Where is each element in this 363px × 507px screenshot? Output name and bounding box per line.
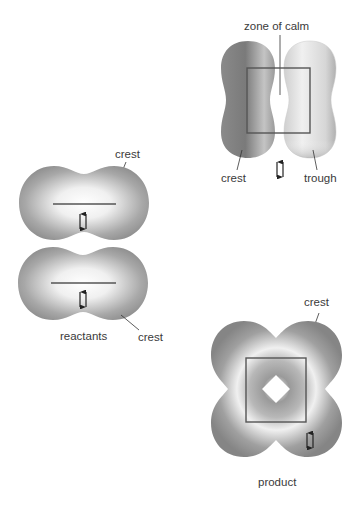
reactant-crest-leader-bottom [121, 315, 139, 330]
transition-state-panel: zone of calm crest trough [221, 20, 337, 184]
reactant-orbital-top [19, 166, 149, 240]
reactants-caption: reactants [60, 330, 108, 342]
trough-label: trough [304, 172, 337, 184]
orbital-diagram: zone of calm crest trough crest [0, 0, 363, 507]
product-panel: crest product [211, 296, 342, 488]
reactants-panel: crest reactants crest [18, 148, 164, 343]
crest-label: crest [221, 172, 247, 184]
zone-of-calm-label: zone of calm [244, 20, 309, 32]
spin-pair-icon [277, 162, 283, 177]
product-crest-label: crest [304, 296, 330, 308]
product-caption: product [258, 476, 297, 488]
reactant-crest-label-top: crest [115, 148, 141, 160]
product-orbital [211, 321, 342, 457]
reactant-crest-label-bottom: crest [138, 331, 164, 343]
crest-lobe [221, 41, 275, 158]
